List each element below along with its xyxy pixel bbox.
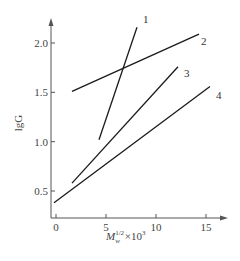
series-line-4 [54,86,210,202]
x-tick-label: 10 [151,221,163,233]
x-tick-label: 0 [53,221,59,233]
series-label-3: 3 [184,67,190,79]
series-label-1: 1 [143,13,149,25]
series-line-1 [99,27,137,140]
y-tick-label: 2.0 [34,37,48,49]
x-axis-arrow-icon [220,216,228,221]
x-tick-label: 15 [201,221,213,233]
series-label-2: 2 [201,35,207,47]
data-lines [54,27,210,203]
chart: 0.51.01.52.0051015 1234 lgG M1/2w×103 [0,0,240,261]
y-axis-title: lgG [12,115,24,132]
y-tick-label: 1.5 [34,86,48,98]
series-label-4: 4 [216,89,222,101]
y-axis-arrow-icon [49,18,54,26]
series-labels: 1234 [143,13,222,101]
y-tick-label: 1.0 [34,136,48,148]
y-tick-label: 0.5 [34,185,48,197]
x-axis-title: M1/2w×103 [105,229,146,245]
axes: 0.51.01.52.0051015 [34,18,228,233]
series-line-2 [72,34,199,91]
